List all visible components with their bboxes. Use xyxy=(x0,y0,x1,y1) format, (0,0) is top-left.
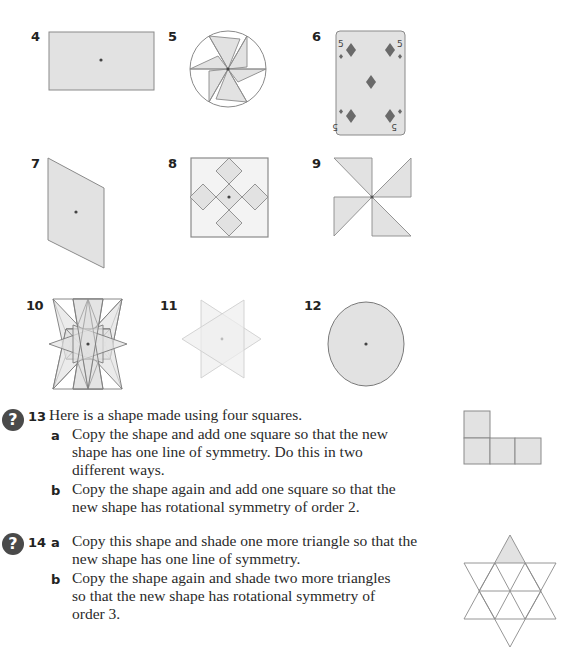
svg-text:5: 5 xyxy=(397,39,403,49)
question-13a-label: a xyxy=(51,428,60,443)
question-14b-line-3: order 3. xyxy=(72,605,120,623)
figure-8-square-diamonds xyxy=(190,158,268,237)
question-14b-line-1: Copy the shape again and shade two more … xyxy=(72,569,391,587)
question-14-number: 14 xyxy=(28,535,46,550)
question-14b-label: b xyxy=(51,572,60,587)
question-13-number: 13 xyxy=(28,409,46,424)
question-13-intro: Here is a shape made using four squares. xyxy=(49,406,302,424)
question-mark-icon: ? xyxy=(2,409,24,431)
figure-5-pinwheel-circle xyxy=(190,31,266,107)
figure-7-parallelogram xyxy=(48,158,104,268)
question-14b-line-2: so that the new shape has rotational sym… xyxy=(72,587,375,605)
figure-4-rectangle xyxy=(49,32,154,90)
svg-text:5: 5 xyxy=(338,39,344,49)
question-13-l-shape xyxy=(464,411,541,464)
question-13b-line-2: new shape has rotational symmetry of ord… xyxy=(72,498,360,516)
figure-9-pinwheel-triangles xyxy=(334,158,411,236)
question-13a-line-3: different ways. xyxy=(72,461,165,479)
question-13b-label: b xyxy=(51,483,60,498)
question-13b-line-1: Copy the shape again and add one square … xyxy=(72,480,396,498)
question-14a-line-1: Copy this shape and shade one more trian… xyxy=(72,532,417,550)
question-14a-line-2: new shape has one line of symmetry. xyxy=(72,550,300,568)
figure-6-playing-card: 5 5 5 5 xyxy=(332,31,405,135)
svg-text:5: 5 xyxy=(391,122,397,132)
svg-text:5: 5 xyxy=(332,122,338,132)
figure-11-six-point-star xyxy=(182,300,261,378)
figure-12-circle xyxy=(328,302,404,386)
question-mark-icon: ? xyxy=(2,533,24,555)
figure-10-eight-point-star xyxy=(49,299,127,389)
question-13a-line-2: shape has one line of symmetry. Do this … xyxy=(72,443,363,461)
question-14a-label: a xyxy=(51,535,60,550)
question-13a-line-1: Copy the shape and add one square so tha… xyxy=(72,425,388,443)
question-14-hexagram-grid xyxy=(464,535,556,647)
